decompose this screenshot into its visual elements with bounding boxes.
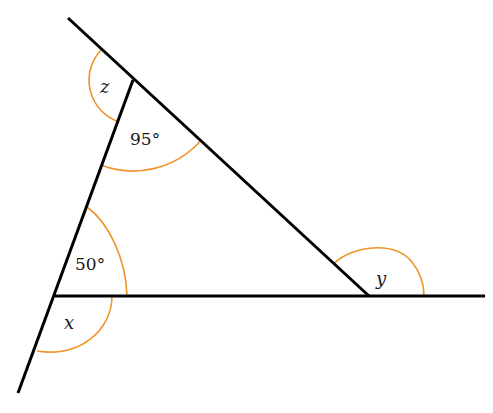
- angle-arc-x: [37, 296, 112, 352]
- label-y: y: [375, 268, 387, 289]
- label-angle-95: 95°: [130, 129, 160, 149]
- slanted-top-line: [68, 18, 369, 296]
- label-angle-50: 50°: [75, 254, 105, 274]
- label-z: z: [99, 76, 110, 97]
- label-x: x: [64, 312, 74, 333]
- triangle-diagram: z 95° 50° x y: [0, 0, 493, 413]
- angle-arc-50: [87, 207, 127, 296]
- left-line: [18, 80, 133, 393]
